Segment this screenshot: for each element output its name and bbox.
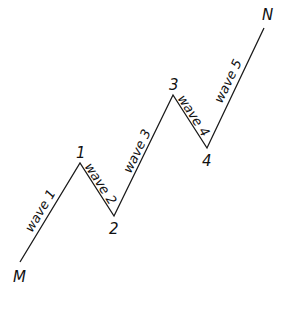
point-label-2: 2 bbox=[109, 220, 119, 238]
elliott-wave-diagram: M 1 2 3 4 N wave 1 wave 2 wave 3 wave 4 … bbox=[0, 0, 281, 312]
point-label-3: 3 bbox=[169, 76, 179, 94]
point-label-m: M bbox=[13, 268, 26, 286]
wave-labels: wave 1 wave 2 wave 3 wave 4 wave 5 bbox=[22, 57, 245, 235]
diagram-svg: M 1 2 3 4 N wave 1 wave 2 wave 3 wave 4 … bbox=[0, 0, 281, 312]
wave-label-1: wave 1 bbox=[22, 187, 59, 235]
point-label-n: N bbox=[262, 6, 273, 24]
point-label-1: 1 bbox=[76, 144, 86, 162]
wave-label-2: wave 2 bbox=[82, 160, 120, 207]
wave-label-5: wave 5 bbox=[211, 57, 245, 106]
wave-label-4: wave 4 bbox=[175, 92, 213, 139]
wave-label-3: wave 3 bbox=[120, 127, 154, 176]
point-label-4: 4 bbox=[202, 152, 212, 170]
